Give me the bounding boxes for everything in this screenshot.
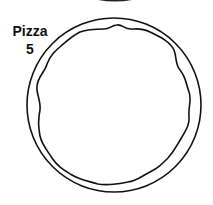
pizza-label: Pizza 5 bbox=[8, 22, 52, 58]
item-count: 5 bbox=[8, 40, 52, 58]
item-name: Pizza bbox=[8, 22, 52, 40]
pizza-crust-inner bbox=[37, 25, 190, 185]
pizza-outer-edge bbox=[27, 18, 201, 192]
top-partial-shape bbox=[98, 0, 132, 2]
